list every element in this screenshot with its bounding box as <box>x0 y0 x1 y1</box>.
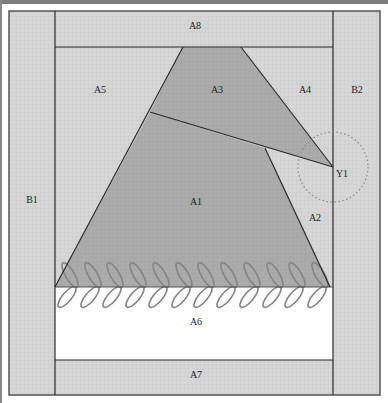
label-a7: A7 <box>190 369 202 380</box>
label-y1: Y1 <box>336 168 348 179</box>
label-a8: A8 <box>189 20 201 31</box>
label-a3: A3 <box>211 84 223 95</box>
label-a6: A6 <box>190 316 202 327</box>
label-a5: A5 <box>94 84 106 95</box>
label-a1: A1 <box>190 196 202 207</box>
label-b2: B2 <box>351 84 363 95</box>
label-a4: A4 <box>299 84 311 95</box>
quilt-diagram: A8 A5 A3 A4 B2 B1 A1 A2 Y1 A6 A7 <box>0 0 388 403</box>
label-a2: A2 <box>309 212 321 223</box>
label-b1: B1 <box>26 194 38 205</box>
leaf-vine-embroidery <box>0 0 4 23</box>
